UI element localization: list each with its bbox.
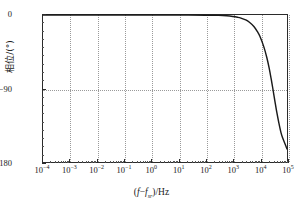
x-tick-minor bbox=[282, 161, 283, 163]
y-tick-minor bbox=[42, 55, 44, 56]
x-tick-major bbox=[97, 159, 98, 163]
phase-response-curve bbox=[43, 15, 287, 149]
y-tick-minor bbox=[42, 138, 44, 139]
x-tick-mantissa: 10 bbox=[173, 165, 182, 175]
y-tick-label: 0 bbox=[0, 10, 12, 19]
x-tick-minor bbox=[192, 161, 193, 163]
y-tick-major bbox=[42, 163, 46, 164]
y-tick-label: −180 bbox=[0, 159, 12, 168]
x-tick-major bbox=[69, 159, 70, 163]
x-tick-minor bbox=[250, 161, 251, 163]
x-tick-minor bbox=[58, 161, 59, 163]
x-tick-mantissa: 10 bbox=[89, 165, 98, 175]
y-tick-major bbox=[42, 89, 46, 90]
x-tick-major bbox=[233, 159, 234, 163]
x-tick-mantissa: 10 bbox=[255, 165, 264, 175]
y-tick-minor bbox=[42, 39, 44, 40]
x-tick-major bbox=[261, 159, 262, 163]
x-tick-mantissa: 10 bbox=[200, 165, 209, 175]
x-tick-minor bbox=[132, 161, 133, 163]
x-tick-exponent: 3 bbox=[236, 164, 239, 170]
x-tick-mantissa: 10 bbox=[146, 165, 155, 175]
y-tick-minor bbox=[42, 64, 44, 65]
x-tick-minor bbox=[137, 161, 138, 163]
bode-phase-figure: 10−410−310−210−11001011021031041050−90−1… bbox=[0, 0, 303, 214]
x-tick-major bbox=[151, 159, 152, 163]
x-tick-label: 10−3 bbox=[62, 166, 77, 175]
x-tick-label: 10−2 bbox=[89, 166, 104, 175]
x-tick-major bbox=[179, 159, 180, 163]
x-tick-minor bbox=[160, 161, 161, 163]
x-tick-label: 103 bbox=[228, 166, 240, 175]
x-tick-mantissa: 10 bbox=[35, 165, 44, 175]
plot-area bbox=[42, 14, 288, 163]
x-tick-minor bbox=[225, 161, 226, 163]
y-tick-minor bbox=[42, 122, 44, 123]
x-tick-exponent: −4 bbox=[43, 164, 49, 170]
x-tick-label: 10−1 bbox=[117, 166, 132, 175]
x-tick-minor bbox=[219, 161, 220, 163]
x-tick-label: 102 bbox=[200, 166, 212, 175]
x-tick-minor bbox=[113, 161, 114, 163]
x-tick-exponent: 0 bbox=[154, 164, 157, 170]
x-tick-minor bbox=[222, 161, 223, 163]
x-tick-major bbox=[288, 159, 289, 163]
y-tick-minor bbox=[42, 97, 44, 98]
y-tick-minor bbox=[42, 22, 44, 23]
x-axis-title: (f−fsr)/Hz bbox=[0, 188, 303, 198]
x-tick-minor bbox=[242, 161, 243, 163]
x-tick-minor bbox=[105, 161, 106, 163]
x-tick-mantissa: 10 bbox=[117, 165, 126, 175]
x-tick-minor bbox=[88, 161, 89, 163]
x-tick-label: 104 bbox=[255, 166, 267, 175]
x-tick-minor bbox=[50, 161, 51, 163]
x-tick-label: 10−4 bbox=[35, 166, 50, 175]
y-axis-title: 相位/(°) bbox=[6, 21, 15, 93]
x-tick-minor bbox=[110, 161, 111, 163]
x-tick-minor bbox=[86, 161, 87, 163]
x-tick-minor bbox=[195, 161, 196, 163]
x-tick-minor bbox=[170, 161, 171, 163]
y-tick-minor bbox=[42, 130, 44, 131]
x-tick-minor bbox=[277, 161, 278, 163]
x-tick-minor bbox=[78, 161, 79, 163]
x-tick-exponent: −3 bbox=[70, 164, 76, 170]
x-tick-minor bbox=[280, 161, 281, 163]
x-tick-minor bbox=[214, 161, 215, 163]
x-tick-exponent: 2 bbox=[209, 164, 212, 170]
x-tick-minor bbox=[82, 161, 83, 163]
x-tick-exponent: −2 bbox=[98, 164, 104, 170]
y-tick-minor bbox=[42, 146, 44, 147]
x-tick-minor bbox=[164, 161, 165, 163]
x-tick-minor bbox=[274, 161, 275, 163]
x-tick-minor bbox=[118, 161, 119, 163]
x-tick-minor bbox=[116, 161, 117, 163]
x-title-suffix: )/Hz bbox=[152, 187, 169, 197]
x-tick-mantissa: 10 bbox=[282, 165, 291, 175]
x-tick-exponent: 4 bbox=[263, 164, 266, 170]
x-tick-minor bbox=[246, 161, 247, 163]
x-tick-label: 105 bbox=[282, 166, 294, 175]
y-tick-minor bbox=[42, 105, 44, 106]
y-tick-minor bbox=[42, 80, 44, 81]
y-tick-major bbox=[42, 14, 46, 15]
x-tick-minor bbox=[198, 161, 199, 163]
x-tick-major bbox=[124, 159, 125, 163]
x-tick-label: 101 bbox=[173, 166, 185, 175]
x-tick-minor bbox=[269, 161, 270, 163]
y-tick-minor bbox=[42, 72, 44, 73]
x-tick-mantissa: 10 bbox=[228, 165, 237, 175]
y-tick-minor bbox=[42, 155, 44, 156]
x-tick-label: 100 bbox=[146, 166, 158, 175]
x-tick-minor bbox=[187, 161, 188, 163]
x-tick-exponent: 5 bbox=[291, 164, 294, 170]
x-tick-minor bbox=[200, 161, 201, 163]
x-tick-minor bbox=[55, 161, 56, 163]
x-tick-exponent: 1 bbox=[181, 164, 184, 170]
x-gridline bbox=[289, 15, 290, 162]
x-tick-mantissa: 10 bbox=[62, 165, 71, 175]
x-tick-minor bbox=[140, 161, 141, 163]
x-tick-minor bbox=[143, 161, 144, 163]
x-tick-exponent: −1 bbox=[125, 164, 131, 170]
y-tick-minor bbox=[42, 113, 44, 114]
